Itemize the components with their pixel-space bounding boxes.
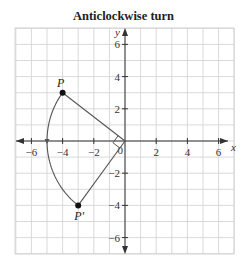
y-tick-label: 2 [115,103,121,115]
point-P-label: P [56,76,65,90]
y-tick-label: −2 [108,167,120,179]
y-tick-label: 6 [115,38,121,50]
x-axis-arrow-right [220,138,228,144]
x-tick-label: 2 [153,146,159,158]
y-tick-label: −6 [108,232,120,244]
x-tick-label: −4 [57,146,69,158]
y-tick-label: 4 [115,71,121,83]
x-axis-arrow-left [16,138,24,144]
y-axis-arrow-up [122,28,128,36]
diagram-canvas: Anticlockwise turn xy−6−4−2246−6−4−22460… [0,0,247,271]
diagram-title: Anticlockwise turn [73,9,174,23]
x-tick-label: 6 [216,146,222,158]
point-P-prime-label: P' [73,209,84,223]
y-tick-label: −4 [108,199,120,211]
y-axis-label: y [114,26,120,38]
point-P [60,90,66,96]
x-tick-label: 4 [185,146,191,158]
x-tick-label: −6 [26,146,38,158]
y-axis-arrow-down [122,246,128,254]
x-tick-label: −2 [88,146,100,158]
x-axis-label: x [230,141,236,153]
point-P-prime [75,202,81,208]
